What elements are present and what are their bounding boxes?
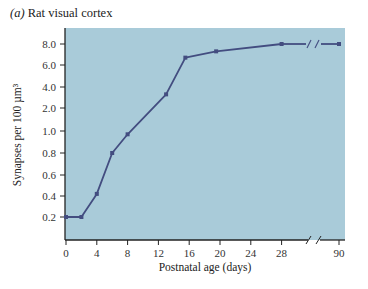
data-point (126, 132, 130, 136)
data-point (280, 42, 284, 46)
x-axis-label: Postnatal age (days) (159, 261, 252, 274)
data-point (183, 56, 187, 60)
y-tick-label: 4.0 (42, 81, 56, 93)
y-axis-label: Synapses per 100 µm³ (11, 83, 24, 186)
x-tick-label: 20 (215, 247, 227, 259)
y-tick-label: 0.4 (42, 190, 56, 202)
y-tick-label: 0.8 (42, 147, 56, 159)
y-tick-label: 0.2 (42, 211, 56, 223)
data-point (337, 42, 341, 46)
x-tick-label: 12 (153, 247, 164, 259)
y-axis-ticks: 0.20.40.60.81.02.04.06.08.0 (42, 38, 65, 223)
line-chart: 0.20.40.60.81.02.04.06.08.0 048121620242… (0, 0, 368, 289)
data-point (95, 192, 99, 196)
data-point (110, 151, 114, 155)
x-tick-label: 8 (125, 247, 131, 259)
x-tick-label: 28 (276, 247, 288, 259)
y-tick-label: 0.6 (42, 169, 56, 181)
data-point (214, 49, 218, 53)
y-tick-label: 6.0 (42, 59, 56, 71)
x-tick-label: 0 (63, 247, 69, 259)
data-point (79, 215, 83, 219)
data-point (164, 92, 168, 96)
x-tick-label: 16 (184, 247, 196, 259)
x-tick-label: 24 (245, 247, 257, 259)
x-tick-label: 90 (334, 247, 346, 259)
data-point (64, 215, 68, 219)
y-tick-label: 2.0 (42, 102, 56, 114)
y-tick-label: 1.0 (42, 125, 56, 137)
x-tick-label: 4 (94, 247, 100, 259)
y-tick-label: 8.0 (42, 38, 56, 50)
x-axis-ticks: 048121620242890 (63, 240, 345, 259)
plot-area (65, 28, 345, 240)
